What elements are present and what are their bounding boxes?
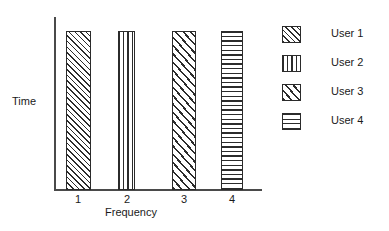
- x-tick-label-1: 1: [68, 193, 88, 205]
- legend-row-user-3: User 3: [282, 82, 389, 111]
- x-tick-label-4: 4: [222, 193, 242, 205]
- legend-row-user-4: User 4: [282, 111, 389, 140]
- x-axis-title: Frequency: [0, 206, 262, 218]
- x-tick-label-3: 3: [174, 193, 194, 205]
- bar-user-1: [66, 31, 91, 190]
- bar-user-3: [172, 31, 196, 190]
- hatch-diagonal-wide-swatch-icon: [282, 84, 301, 101]
- legend-label-user-1: User 1: [331, 27, 363, 39]
- hatch-horizontal-swatch-icon: [282, 113, 301, 130]
- bar-user-4: [221, 31, 243, 190]
- legend: User 1 User 2 User 3 User 4: [282, 24, 389, 140]
- legend-label-user-4: User 4: [331, 114, 363, 126]
- hatch-vertical-swatch-icon: [282, 55, 301, 72]
- y-axis-line: [54, 17, 56, 191]
- fdma-frequency-time-chart: Time Frequency 1 2 3 4 User 1 User 2 Use…: [0, 0, 389, 231]
- legend-label-user-3: User 3: [331, 85, 363, 97]
- legend-row-user-1: User 1: [282, 24, 389, 53]
- legend-row-user-2: User 2: [282, 53, 389, 82]
- y-axis-title: Time: [12, 95, 36, 107]
- x-tick-label-2: 2: [117, 193, 137, 205]
- bar-user-2: [118, 31, 135, 190]
- plot-area: Time Frequency 1 2 3 4: [0, 0, 280, 231]
- legend-label-user-2: User 2: [331, 56, 363, 68]
- hatch-diagonal-dense-swatch-icon: [282, 26, 301, 43]
